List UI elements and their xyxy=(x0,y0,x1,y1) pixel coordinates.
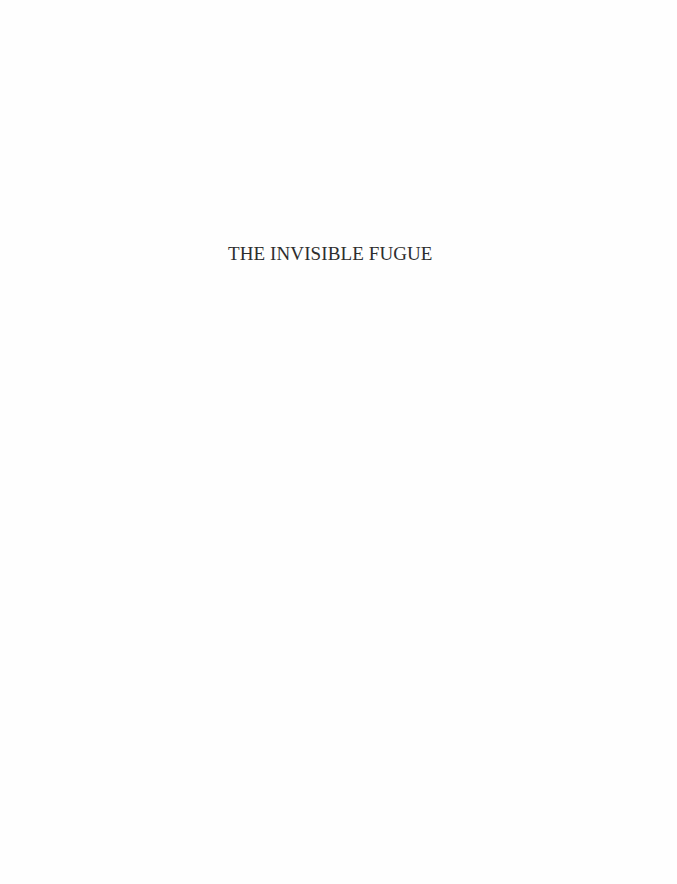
book-page: THE INVISIBLE FUGUE xyxy=(0,0,677,884)
half-title: THE INVISIBLE FUGUE xyxy=(228,243,458,265)
